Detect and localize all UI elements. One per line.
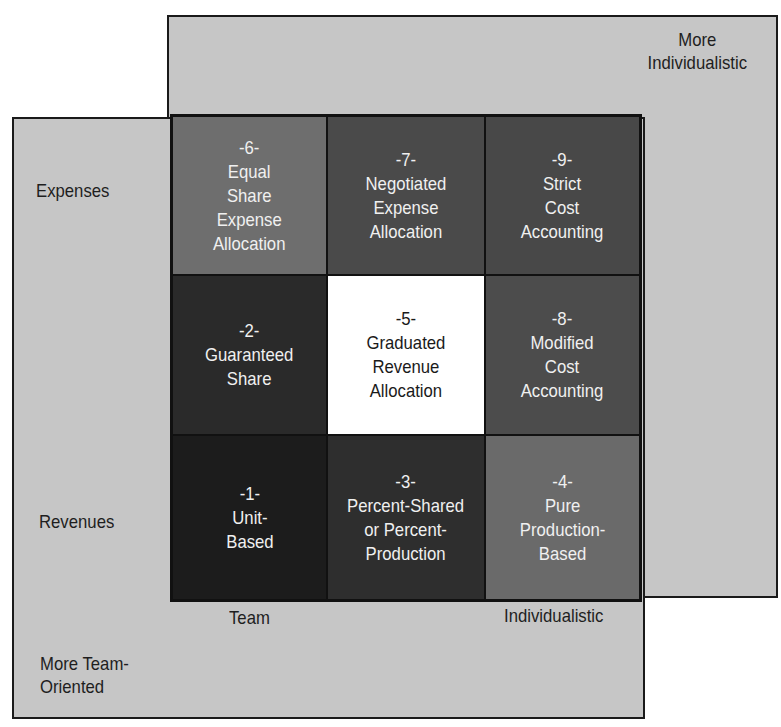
cell-2-guaranteed-share: -2- Guaranteed Share (172, 275, 327, 435)
column-label-team: Team (229, 606, 270, 629)
cell-text-line: Modified (521, 331, 604, 355)
cell-text-line: Equal (213, 160, 286, 184)
more-individualistic-line-2: Individualistic (648, 51, 747, 74)
cell-text-line: Pure (520, 494, 606, 518)
cell-text-line: Allocation (366, 379, 445, 403)
cell-text-line: Share (205, 367, 293, 391)
cell-text-line: Negotiated (366, 172, 447, 196)
more-team-oriented-line-2: Oriented (40, 675, 129, 698)
cell-text-line: Guaranteed (205, 343, 293, 367)
cell-9-strict-cost-accounting: -9- Strict Cost Accounting (485, 116, 640, 275)
cell-text-line: Expense (366, 196, 447, 220)
cell-8-modified-cost-accounting: -8- Modified Cost Accounting (485, 275, 640, 435)
more-team-oriented-line-1: More Team- (40, 652, 129, 675)
cell-text-line: Accounting (521, 220, 604, 244)
more-team-oriented-label: More Team- Oriented (40, 652, 129, 698)
cell-number: -9- (521, 148, 604, 172)
cell-number: -3- (347, 470, 464, 494)
cell-text-line: Accounting (521, 379, 604, 403)
cell-text-line: Cost (521, 355, 604, 379)
cell-4-pure-production-based: -4- Pure Production- Based (485, 435, 640, 600)
cell-text-line: Based (226, 530, 273, 554)
compensation-grid: -6- Equal Share Expense Allocation -7- N… (170, 114, 642, 602)
cell-5-graduated-revenue-allocation: -5- Graduated Revenue Allocation (327, 275, 485, 435)
cell-number: -6- (213, 136, 286, 160)
cell-text-line: Strict (521, 172, 604, 196)
cell-7-negotiated-expense-allocation: -7- Negotiated Expense Allocation (327, 116, 485, 275)
cell-number: -8- (521, 307, 604, 331)
column-label-individualistic: Individualistic (504, 604, 603, 627)
cell-text-line: Graduated (366, 331, 445, 355)
cell-text-line: Percent-Shared (347, 494, 464, 518)
row-label-expenses: Expenses (36, 179, 109, 202)
cell-number: -2- (205, 319, 293, 343)
cell-number: -4- (520, 470, 606, 494)
cell-number: -7- (366, 148, 447, 172)
cell-text-line: or Percent- (347, 518, 464, 542)
cell-number: -1- (226, 482, 273, 506)
cell-text-line: Based (520, 542, 606, 566)
cell-text-line: Unit- (226, 506, 273, 530)
more-individualistic-label: More Individualistic (648, 28, 747, 74)
cell-6-equal-share-expense-allocation: -6- Equal Share Expense Allocation (172, 116, 327, 275)
cell-number: -5- (366, 307, 445, 331)
cell-text-line: Allocation (366, 220, 447, 244)
cell-text-line: Revenue (366, 355, 445, 379)
row-label-revenues: Revenues (39, 510, 114, 533)
more-individualistic-line-1: More (648, 28, 747, 51)
cell-3-percent-shared-or-percent-production: -3- Percent-Shared or Percent- Productio… (327, 435, 485, 600)
cell-text-line: Cost (521, 196, 604, 220)
cell-text-line: Production- (520, 518, 606, 542)
cell-text-line: Share (213, 184, 286, 208)
cell-text-line: Allocation (213, 232, 286, 256)
cell-1-unit-based: -1- Unit- Based (172, 435, 327, 600)
cell-text-line: Expense (213, 208, 286, 232)
cell-text-line: Production (347, 542, 464, 566)
